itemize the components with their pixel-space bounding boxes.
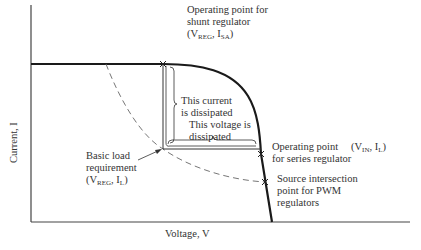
voltage-dissipated-corner (166, 143, 256, 146)
pwm-line1: Source intersection (277, 173, 358, 185)
load-line2: requirement (86, 162, 137, 174)
shunt-line1: Operating point for (187, 4, 268, 16)
source-iv-curve (31, 64, 272, 222)
series-coords: (VIN, IL) (351, 141, 386, 156)
series-line1: Operating point (272, 141, 351, 153)
load-coords: (VREG, IL) (86, 174, 137, 189)
current-dissipated-line1: This current (181, 95, 233, 107)
shunt-line2: shunt regulator (187, 16, 268, 28)
x-axis-label: Voltage, V (165, 228, 210, 240)
pwm-line3: regulators (277, 197, 358, 209)
series-line2: for series regulator (272, 153, 351, 165)
current-dissipated-line2: is dissipated (181, 107, 233, 119)
y-axis-label: Current, I (8, 122, 19, 163)
current-dissipated-annotation: This current is dissipated (181, 95, 233, 119)
load-line1: Basic load (86, 150, 137, 162)
shunt-annotation: Operating point for shunt regulator (VRE… (187, 4, 268, 43)
voltage-dissipated-line2: dissipated (189, 131, 251, 143)
series-annotation: Operating point for series regulator (272, 141, 351, 165)
voltage-dissipated-annotation: This voltage is dissipated (189, 119, 251, 143)
pwm-line2: point for PWM (277, 185, 358, 197)
shunt-coords: (VREG, ISA) (187, 28, 268, 43)
load-arrow-head (155, 149, 162, 154)
pwm-annotation: Source intersection point for PWM regula… (277, 173, 358, 209)
load-annotation: Basic load requirement (VREG, IL) (86, 150, 137, 189)
voltage-dissipated-line1: This voltage is (189, 119, 251, 131)
current-brace (170, 67, 177, 143)
